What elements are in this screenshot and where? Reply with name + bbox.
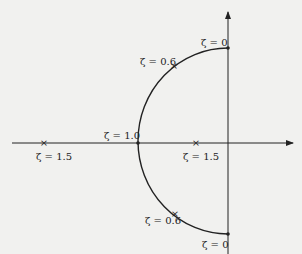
zeta15-left-marker: × — [40, 137, 48, 148]
label-zeta06-upper: ζ = 0.6 — [140, 56, 176, 67]
label-zeta0-lower: ζ = 0 — [202, 239, 229, 250]
label-zeta0-upper: ζ = 0 — [201, 37, 228, 48]
label-zeta15-right: ζ = 1.5 — [183, 151, 219, 162]
zeta15-right-marker: × — [192, 137, 200, 148]
zeta0-lower-marker — [226, 232, 230, 236]
svg-text:×: × — [40, 137, 48, 148]
root-locus-diagram: × × × × ζ = 0 ζ = 0.6 ζ = 1.0 ζ = 1.5 ζ … — [0, 0, 302, 254]
locus-arc — [138, 48, 228, 234]
svg-text:×: × — [192, 137, 200, 148]
zeta10-marker — [136, 141, 140, 145]
label-zeta06-lower: ζ = 0.6 — [145, 215, 181, 226]
label-zeta15-left: ζ = 1.5 — [36, 151, 72, 162]
label-zeta10: ζ = 1.0 — [104, 130, 140, 141]
